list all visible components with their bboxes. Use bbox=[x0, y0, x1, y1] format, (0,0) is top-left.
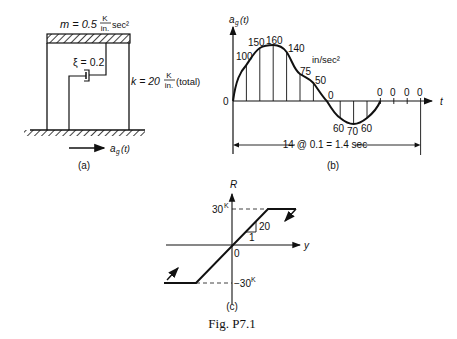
value-labels: 100 150 160 140 75 50 0 60 70 60 0 0 0 0 bbox=[236, 35, 423, 137]
svg-text:m = 0.5: m = 0.5 bbox=[60, 18, 98, 30]
slope-run-label: 1 bbox=[249, 232, 255, 243]
slope-rise-label: 20 bbox=[259, 221, 271, 232]
mass-unit-num: K bbox=[102, 14, 108, 23]
y-axis-arg: (t) bbox=[240, 14, 249, 25]
svg-text:140: 140 bbox=[288, 43, 305, 54]
svg-text:70: 70 bbox=[347, 126, 359, 137]
reload-arrow-icon bbox=[167, 268, 178, 280]
ground-hatch bbox=[24, 130, 145, 136]
svg-text:60: 60 bbox=[333, 123, 345, 134]
stiffness-label: k = 20 bbox=[131, 75, 160, 87]
svg-text:160: 160 bbox=[266, 35, 283, 46]
svg-text:150: 150 bbox=[248, 37, 265, 48]
mass-unit-tail: sec² bbox=[112, 20, 129, 30]
acceleration-curve bbox=[233, 45, 380, 124]
origin-c-label: 0 bbox=[234, 248, 240, 259]
svg-text:0: 0 bbox=[404, 87, 410, 98]
lower-yield-sup: K bbox=[251, 276, 256, 283]
damping-label: ξ = 0.2 bbox=[73, 56, 104, 68]
caption-b: (b) bbox=[327, 160, 339, 171]
mass-label: m = 0.5 bbox=[60, 18, 98, 30]
span-label: 14 @ 0.1 = 1.4 sec bbox=[283, 139, 367, 150]
svg-text:50: 50 bbox=[315, 75, 327, 86]
stiffness-unit-den: in. bbox=[165, 81, 173, 90]
mass-unit-den: in. bbox=[101, 24, 109, 33]
svg-text:100: 100 bbox=[236, 51, 253, 62]
caption-c: (c) bbox=[226, 301, 238, 312]
svg-text:60: 60 bbox=[361, 123, 373, 134]
upper-yield-label: 30 bbox=[212, 204, 224, 215]
svg-text:0: 0 bbox=[417, 87, 423, 98]
unload-arrow-icon bbox=[285, 209, 296, 221]
resistance-displacement-chart bbox=[164, 194, 300, 304]
y-axis-c-label: y bbox=[303, 240, 310, 251]
x-axis-label: t bbox=[440, 96, 444, 107]
figure-caption: Fig. P7.1 bbox=[208, 316, 255, 331]
units-label: in/sec² bbox=[312, 54, 340, 65]
stiffness-tail: (total) bbox=[176, 76, 200, 87]
mass-beam bbox=[47, 34, 130, 43]
svg-text:0: 0 bbox=[377, 87, 383, 98]
svg-text:0: 0 bbox=[390, 87, 396, 98]
ground-accel-sub: g bbox=[116, 148, 120, 156]
r-axis-label: R bbox=[230, 179, 237, 190]
hysteresis-path bbox=[164, 209, 296, 283]
y-axis-sub: g bbox=[235, 19, 239, 27]
svg-text:0: 0 bbox=[328, 90, 334, 101]
lower-yield-label: −30 bbox=[234, 278, 251, 289]
figure-canvas: m = 0.5 K in. sec² ξ = 0.2 k = 20 K in. … bbox=[0, 0, 457, 339]
frame-figure bbox=[24, 34, 145, 148]
caption-a: (a) bbox=[78, 160, 90, 171]
upper-yield-sup: K bbox=[224, 202, 229, 209]
ground-accel-arg: (t) bbox=[121, 143, 130, 154]
origin-label: 0 bbox=[223, 96, 229, 107]
stiffness-unit-num: K bbox=[166, 71, 172, 80]
svg-text:75: 75 bbox=[300, 66, 312, 77]
